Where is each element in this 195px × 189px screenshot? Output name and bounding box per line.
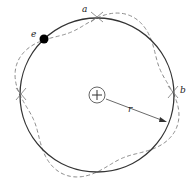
diagram-canvas: a b e r bbox=[0, 0, 195, 189]
node-mark-a bbox=[91, 12, 103, 22]
nucleus-icon bbox=[89, 87, 105, 103]
node-mark-b bbox=[168, 86, 178, 98]
node-mark-left bbox=[16, 88, 26, 100]
label-a: a bbox=[82, 4, 87, 14]
radius-arrow bbox=[106, 99, 167, 122]
label-b: b bbox=[180, 85, 186, 95]
electron-dot bbox=[40, 35, 49, 44]
label-e: e bbox=[31, 29, 36, 39]
label-r: r bbox=[128, 104, 133, 114]
